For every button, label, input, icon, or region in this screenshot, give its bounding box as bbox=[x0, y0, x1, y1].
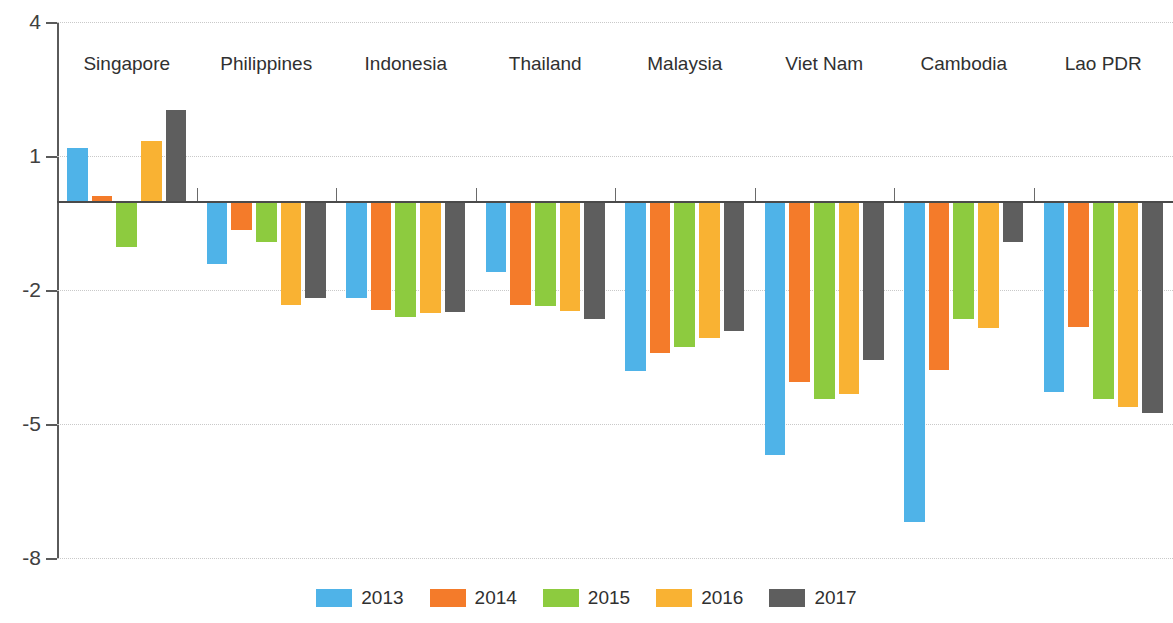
bar-viet-nam-2013 bbox=[765, 201, 786, 455]
bar-indonesia-2016 bbox=[420, 201, 441, 313]
bar-malaysia-2015 bbox=[674, 201, 695, 347]
legend-label: 2015 bbox=[588, 587, 630, 609]
legend-label: 2014 bbox=[475, 587, 517, 609]
bar-philippines-2016 bbox=[281, 201, 302, 305]
plot-area bbox=[57, 22, 1173, 558]
bar-cambodia-2016 bbox=[978, 201, 999, 329]
group-separator bbox=[615, 188, 616, 201]
bar-viet-nam-2015 bbox=[814, 201, 835, 399]
group-separator bbox=[476, 188, 477, 201]
bar-cambodia-2017 bbox=[1003, 201, 1024, 242]
bar-philippines-2015 bbox=[256, 201, 277, 242]
category-label-philippines: Philippines bbox=[220, 53, 312, 75]
legend-item-2016[interactable]: 2016 bbox=[656, 587, 743, 609]
bar-lao-pdr-2014 bbox=[1068, 201, 1089, 327]
bar-singapore-2013 bbox=[67, 148, 88, 201]
bar-cambodia-2014 bbox=[929, 201, 950, 371]
y-axis-tick bbox=[46, 424, 57, 426]
gridline bbox=[57, 156, 1173, 157]
bar-indonesia-2014 bbox=[371, 201, 392, 310]
y-axis-tick bbox=[46, 290, 57, 292]
y-axis-tick-label: 4 bbox=[0, 10, 41, 34]
bar-lao-pdr-2013 bbox=[1044, 201, 1065, 392]
category-label-lao-pdr: Lao PDR bbox=[1065, 53, 1142, 75]
group-separator bbox=[894, 188, 895, 201]
bar-thailand-2014 bbox=[510, 201, 531, 305]
legend-swatch-icon bbox=[769, 589, 805, 607]
y-axis-tick-label: -2 bbox=[0, 278, 41, 302]
category-label-indonesia: Indonesia bbox=[365, 53, 447, 75]
zero-baseline bbox=[57, 201, 1173, 203]
bar-cambodia-2015 bbox=[953, 201, 974, 320]
y-axis-tick bbox=[46, 22, 57, 24]
group-separator bbox=[197, 188, 198, 201]
category-label-malaysia: Malaysia bbox=[647, 53, 722, 75]
gridline bbox=[57, 558, 1173, 559]
bar-thailand-2016 bbox=[560, 201, 581, 311]
bar-indonesia-2017 bbox=[445, 201, 466, 312]
bar-lao-pdr-2017 bbox=[1142, 201, 1163, 413]
legend-swatch-icon bbox=[316, 589, 352, 607]
category-label-viet-nam: Viet Nam bbox=[785, 53, 863, 75]
legend-item-2013[interactable]: 2013 bbox=[316, 587, 403, 609]
category-label-singapore: Singapore bbox=[83, 53, 170, 75]
chart-legend: 20132014201520162017 bbox=[0, 587, 1173, 609]
bar-malaysia-2013 bbox=[625, 201, 646, 371]
bar-philippines-2014 bbox=[231, 201, 252, 230]
group-separator bbox=[755, 188, 756, 201]
y-axis-tick bbox=[46, 558, 57, 560]
bar-singapore-2016 bbox=[141, 141, 162, 201]
category-label-cambodia: Cambodia bbox=[920, 53, 1007, 75]
legend-item-2014[interactable]: 2014 bbox=[430, 587, 517, 609]
group-separator bbox=[1034, 188, 1035, 201]
bar-indonesia-2013 bbox=[346, 201, 367, 298]
bar-indonesia-2015 bbox=[395, 201, 416, 317]
bar-lao-pdr-2016 bbox=[1118, 201, 1139, 407]
category-label-thailand: Thailand bbox=[509, 53, 582, 75]
bar-viet-nam-2014 bbox=[789, 201, 810, 382]
group-separator bbox=[336, 188, 337, 201]
bar-singapore-2015 bbox=[116, 201, 137, 247]
y-axis-tick-label: -5 bbox=[0, 412, 41, 436]
legend-label: 2017 bbox=[814, 587, 856, 609]
bar-singapore-2017 bbox=[166, 110, 187, 201]
bar-philippines-2013 bbox=[207, 201, 228, 264]
legend-label: 2016 bbox=[701, 587, 743, 609]
legend-swatch-icon bbox=[430, 589, 466, 607]
bar-malaysia-2014 bbox=[650, 201, 671, 353]
legend-item-2015[interactable]: 2015 bbox=[543, 587, 630, 609]
gridline bbox=[57, 290, 1173, 291]
bar-lao-pdr-2015 bbox=[1093, 201, 1114, 400]
legend-swatch-icon bbox=[543, 589, 579, 607]
bar-thailand-2017 bbox=[584, 201, 605, 319]
bar-thailand-2013 bbox=[486, 201, 507, 272]
legend-swatch-icon bbox=[656, 589, 692, 607]
bar-thailand-2015 bbox=[535, 201, 556, 306]
y-axis-tick-label: 1 bbox=[0, 144, 41, 168]
gridline bbox=[57, 424, 1173, 425]
y-axis-tick bbox=[46, 156, 57, 158]
y-axis-tick-label: -8 bbox=[0, 546, 41, 570]
gridline bbox=[57, 22, 1173, 23]
bar-cambodia-2013 bbox=[904, 201, 925, 523]
legend-label: 2013 bbox=[361, 587, 403, 609]
bar-malaysia-2017 bbox=[724, 201, 745, 331]
bar-chart: 41-2-5-8 SingaporePhilippinesIndonesiaTh… bbox=[0, 0, 1173, 623]
bar-viet-nam-2017 bbox=[863, 201, 884, 360]
bar-philippines-2017 bbox=[305, 201, 326, 298]
bar-viet-nam-2016 bbox=[839, 201, 860, 394]
bar-malaysia-2016 bbox=[699, 201, 720, 338]
legend-item-2017[interactable]: 2017 bbox=[769, 587, 856, 609]
